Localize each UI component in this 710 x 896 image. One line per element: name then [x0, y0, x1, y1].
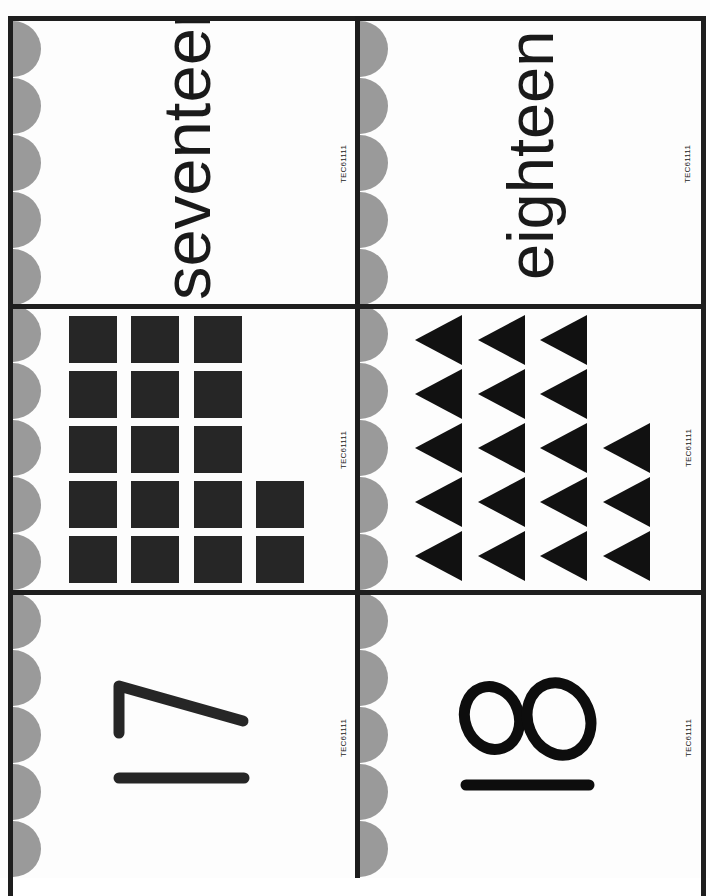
product-code: TEC61111	[684, 719, 693, 757]
triangle-shape	[603, 423, 650, 473]
triangle-shape	[603, 531, 650, 581]
triangle-shape	[540, 369, 587, 419]
numeral-seventeen-glyph	[13, 595, 355, 878]
card-squares-seventeen: TEC61111	[13, 309, 355, 590]
triangle-shape	[415, 531, 462, 581]
square-shape	[194, 481, 242, 528]
square-shape	[131, 316, 179, 363]
scallop-shape	[13, 192, 41, 248]
triangle-shape	[540, 477, 587, 527]
triangle-shape	[540, 315, 587, 365]
card-word-seventeen: seventeen TEC61111	[13, 21, 355, 304]
card-numeral-eighteen: TEC61111	[360, 595, 701, 878]
triangle-shape	[415, 369, 462, 419]
scallop-shape	[13, 534, 41, 590]
triangle-shape	[415, 315, 462, 365]
number-word: eighteen	[498, 31, 563, 280]
triangle-shape	[478, 477, 525, 527]
card-triangles-eighteen: TEC61111	[360, 309, 701, 590]
card-word-eighteen: eighteen TEC61111	[360, 21, 701, 304]
square-shape	[69, 316, 117, 363]
scallop-shape	[13, 249, 41, 304]
square-shape	[131, 426, 179, 473]
triangle-shape	[478, 315, 525, 365]
product-code: TEC61111	[684, 429, 693, 467]
triangle-set	[360, 309, 701, 590]
digit-eight-left-loop	[456, 679, 529, 758]
product-code: TEC61111	[339, 431, 348, 469]
scallop-shape	[360, 21, 388, 77]
scallop-shape	[13, 21, 41, 77]
scallop-shape	[13, 477, 41, 533]
triangle-shape	[415, 477, 462, 527]
scallop-shape	[13, 78, 41, 134]
scallop-shape	[13, 420, 41, 476]
triangle-shape	[603, 477, 650, 527]
scallop-edge	[13, 21, 43, 304]
scallop-shape	[360, 249, 388, 304]
number-word: seventeen	[153, 21, 220, 300]
triangle-shape	[478, 531, 525, 581]
square-shape	[69, 426, 117, 473]
scallop-edge	[360, 21, 390, 304]
square-shape	[194, 371, 242, 418]
triangle-shape	[478, 369, 525, 419]
scallop-shape	[360, 78, 388, 134]
scallop-shape	[13, 309, 41, 362]
square-shape	[256, 536, 304, 583]
scallop-shape	[13, 363, 41, 419]
scallop-edge	[13, 309, 43, 590]
product-code: TEC61111	[339, 145, 348, 183]
triangle-shape	[478, 423, 525, 473]
square-shape	[194, 536, 242, 583]
card-numeral-seventeen: TEC61111	[13, 595, 355, 878]
triangle-shape	[415, 423, 462, 473]
scallop-shape	[360, 192, 388, 248]
square-shape	[256, 481, 304, 528]
numeral-eighteen-glyph	[360, 595, 701, 878]
triangle-shape	[540, 423, 587, 473]
square-shape	[69, 371, 117, 418]
digit-eight-right-loop	[516, 673, 601, 765]
square-shape	[69, 481, 117, 528]
triangle-shape	[540, 531, 587, 581]
square-shape	[194, 316, 242, 363]
product-code: TEC61111	[683, 145, 692, 183]
scallop-shape	[360, 135, 388, 191]
scallop-shape	[13, 135, 41, 191]
square-shape	[131, 536, 179, 583]
product-code: TEC61111	[339, 719, 348, 757]
square-shape	[131, 481, 179, 528]
digit-seven-stroke	[119, 686, 243, 733]
square-shape	[194, 426, 242, 473]
square-shape	[131, 371, 179, 418]
square-shape	[69, 536, 117, 583]
